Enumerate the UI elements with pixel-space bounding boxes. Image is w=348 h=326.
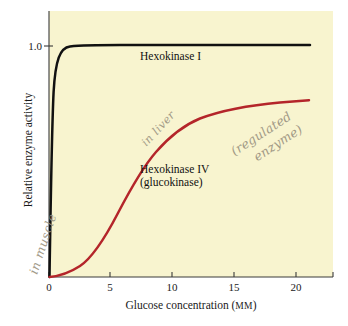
x-axis-ticks	[49, 272, 333, 277]
x-tick-label-15: 15	[219, 281, 249, 293]
curve-hexokinase-1	[50, 45, 311, 277]
y-axis-title: Relative enzyme activity	[22, 50, 34, 250]
series-label-hexokinase-1: Hexokinase I	[140, 50, 201, 63]
enzyme-kinetics-figure: 0 5 10 15 20 1.0 Glucose concentration (…	[0, 0, 348, 326]
x-tick-label-5: 5	[95, 281, 125, 293]
x-tick-label-0: 0	[34, 281, 64, 293]
series-label-hexokinase-4: Hexokinase IV (glucokinase)	[140, 163, 209, 189]
x-tick-label-10: 10	[157, 281, 187, 293]
x-axis-title-text: Glucose concentration (MM)	[126, 299, 257, 311]
x-tick-label-20: 20	[281, 281, 311, 293]
series-label-hexokinase-1-line1: Hexokinase I	[140, 50, 201, 62]
series-label-hexokinase-4-line2: (glucokinase)	[140, 176, 203, 188]
series-label-hexokinase-4-line1: Hexokinase IV	[140, 163, 209, 175]
x-axis-title: Glucose concentration (MM)	[49, 299, 333, 311]
